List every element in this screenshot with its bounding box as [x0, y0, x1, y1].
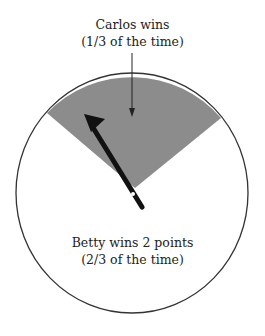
- carlos-label-line1: Carlos wins: [0, 16, 265, 33]
- spinner-diagram: [0, 0, 265, 336]
- betty-label-line2: (2/3 of the time): [0, 251, 265, 268]
- carlos-label-line2: (1/3 of the time): [0, 33, 265, 50]
- needle-pivot: [131, 192, 135, 196]
- carlos-wedge: [47, 77, 221, 188]
- betty-label-line1: Betty wins 2 points: [0, 234, 265, 251]
- carlos-label: Carlos wins (1/3 of the time): [0, 16, 265, 50]
- betty-label: Betty wins 2 points (2/3 of the time): [0, 234, 265, 268]
